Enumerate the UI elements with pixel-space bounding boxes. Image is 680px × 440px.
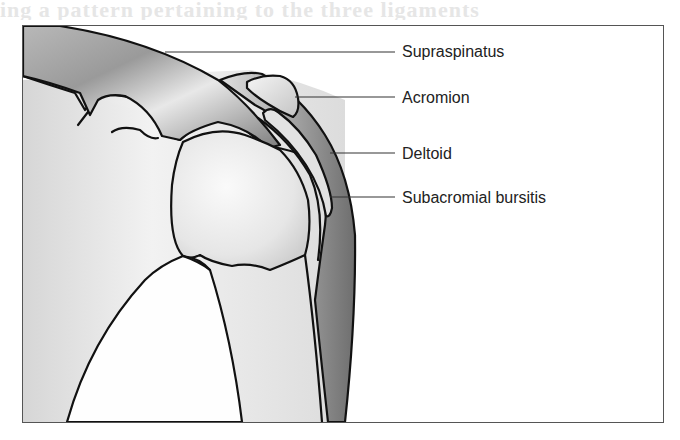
label-deltoid: Deltoid <box>402 145 452 163</box>
label-acromion: Acromion <box>402 89 470 107</box>
label-supraspinatus: Supraspinatus <box>402 43 504 61</box>
shoulder-illustration <box>0 0 680 440</box>
label-subacromial-bursitis: Subacromial bursitis <box>402 189 546 207</box>
